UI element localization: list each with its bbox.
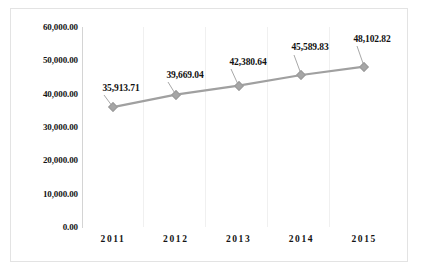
x-axis-tick-label: 2015 <box>351 234 376 244</box>
y-axis-tick-label: 60,000.00 <box>6 22 78 32</box>
y-axis-tick-label: 40,000.00 <box>6 89 78 99</box>
gridline-vertical <box>329 27 330 227</box>
x-axis-tick-label: 2011 <box>101 234 126 244</box>
x-axis-tick-label: 2014 <box>289 234 314 244</box>
data-point-label: 35,913.71 <box>102 83 139 93</box>
y-axis-line <box>82 27 83 228</box>
y-axis-tick-label: 20,000.00 <box>6 155 78 165</box>
y-axis-tick-label: 30,000.00 <box>6 122 78 132</box>
gridline-vertical <box>205 27 206 227</box>
y-axis-tick-labels: 60,000.00 50,000.00 40,000.00 30,000.00 … <box>4 0 78 274</box>
gridline-vertical <box>143 27 144 227</box>
data-point-label: 39,669.04 <box>166 70 203 80</box>
data-point-label: 42,380.64 <box>229 57 266 67</box>
gridline-vertical <box>267 27 268 227</box>
x-axis-tick-label: 2012 <box>163 234 188 244</box>
y-axis-tick-label: 50,000.00 <box>6 55 78 65</box>
data-point-label: 48,102.82 <box>353 34 390 44</box>
x-axis-tick-label: 2013 <box>226 234 251 244</box>
line-chart: 60,000.00 50,000.00 40,000.00 30,000.00 … <box>0 0 423 274</box>
y-axis-tick-label: 0.00 <box>6 222 78 232</box>
y-axis-tick-label: 10,000.00 <box>6 189 78 199</box>
data-point-label: 45,589.83 <box>291 42 328 52</box>
